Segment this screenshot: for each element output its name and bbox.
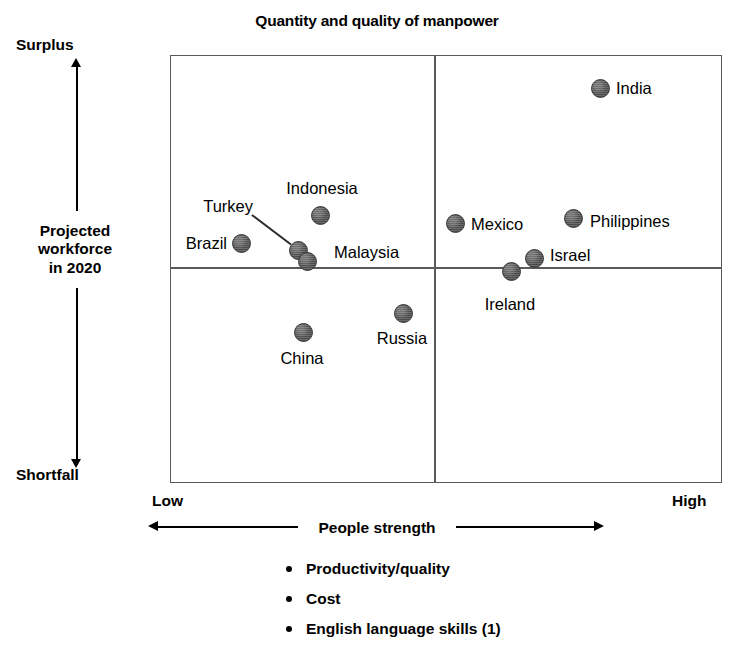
bullet-icon	[286, 626, 292, 632]
data-point-china	[294, 323, 313, 342]
point-label-brazil: Brazil	[186, 235, 227, 252]
legend-label-english-language-skills: English language skills (1)	[306, 620, 501, 638]
x-axis-low-label: Low	[152, 492, 183, 510]
bullet-icon	[286, 566, 292, 572]
point-label-indonesia: Indonesia	[286, 180, 358, 197]
point-label-china: China	[280, 350, 323, 367]
legend-item-cost: Cost	[286, 584, 501, 614]
data-point-ireland	[502, 262, 521, 281]
point-label-malaysia: Malaysia	[334, 244, 399, 261]
data-point-indonesia	[311, 206, 330, 225]
point-label-israel: Israel	[550, 247, 590, 264]
legend-item-productivity-quality: Productivity/quality	[286, 554, 501, 584]
data-point-mexico	[446, 214, 465, 233]
point-label-mexico: Mexico	[471, 216, 523, 233]
point-label-ireland: Ireland	[485, 296, 535, 313]
data-point-russia	[394, 304, 413, 323]
bullet-icon	[286, 596, 292, 602]
legend: Productivity/quality Cost English langua…	[286, 554, 501, 644]
data-point-malaysia	[298, 252, 317, 271]
x-axis-title: People strength	[0, 519, 754, 537]
quadrant-divider-horizontal	[170, 267, 722, 269]
x-axis-arrow-right-icon	[594, 521, 604, 531]
chart-canvas: Quantity and quality of manpower Surplus…	[0, 0, 754, 661]
x-axis-high-label: High	[672, 492, 706, 510]
plot-area	[170, 55, 722, 483]
quadrant-divider-vertical	[434, 55, 436, 483]
y-axis-title: Projected workforce in 2020	[0, 222, 150, 277]
data-point-israel	[525, 249, 544, 268]
point-label-russia: Russia	[377, 330, 427, 347]
chart-title: Quantity and quality of manpower	[0, 12, 754, 30]
point-label-philippines: Philippines	[590, 213, 670, 230]
y-axis-line-down	[76, 288, 78, 460]
point-label-turkey: Turkey	[203, 198, 253, 215]
y-axis-top-label: Surplus	[16, 36, 74, 54]
y-axis-title-line-3: in 2020	[0, 259, 150, 277]
data-point-brazil	[232, 234, 251, 253]
legend-item-english-language-skills: English language skills (1)	[286, 614, 501, 644]
legend-label-cost: Cost	[306, 590, 340, 608]
data-point-philippines	[564, 209, 583, 228]
y-axis-line-up	[76, 66, 78, 211]
y-axis-bottom-label: Shortfall	[16, 466, 79, 484]
point-label-india: India	[616, 80, 652, 97]
legend-label-productivity-quality: Productivity/quality	[306, 560, 450, 578]
data-point-india	[591, 79, 610, 98]
x-axis-line-right	[456, 526, 594, 528]
y-axis-title-line-1: Projected	[0, 222, 150, 240]
y-axis-title-line-2: workforce	[0, 240, 150, 258]
